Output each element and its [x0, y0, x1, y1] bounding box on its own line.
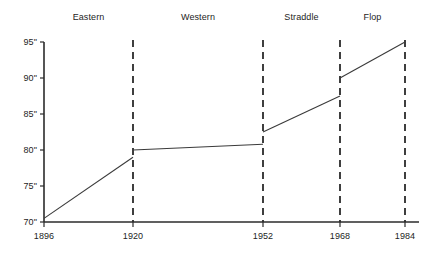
data-line-eastern	[44, 157, 133, 218]
era-label-straddle: Straddle	[284, 12, 318, 22]
data-line-straddle	[263, 96, 340, 132]
y-axis-label-85: 85"	[23, 109, 37, 119]
era-label-eastern: Eastern	[73, 12, 105, 22]
high-jump-record-chart: EasternWesternStraddleFlop 95"90"85"80"7…	[0, 0, 429, 254]
era-label-flop: Flop	[364, 12, 382, 22]
y-axis-label-95: 95"	[23, 37, 37, 47]
data-line-flop	[340, 42, 405, 78]
x-axis-label-1984: 1984	[395, 231, 415, 241]
x-axis-label-1896: 1896	[34, 231, 54, 241]
x-axis-label-1952: 1952	[253, 231, 273, 241]
y-axis-label-90: 90"	[23, 73, 37, 83]
x-axis-label-1968: 1968	[330, 231, 350, 241]
x-axis-label-1920: 1920	[123, 231, 143, 241]
y-axis-label-80: 80"	[23, 145, 37, 155]
y-axis-label-70: 70"	[23, 217, 37, 227]
era-label-western: Western	[181, 12, 215, 22]
data-line-western	[133, 144, 263, 150]
y-axis-label-75: 75"	[23, 181, 37, 191]
chart-plot-area	[0, 0, 429, 254]
